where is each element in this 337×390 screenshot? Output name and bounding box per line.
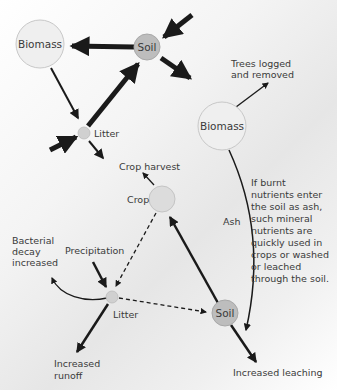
arrow-input-to-soil (164, 15, 192, 37)
precipitation-label: Precipitation (65, 245, 124, 256)
bacterial-decay-label-2: decay (12, 246, 41, 257)
crop-harvest-label: Crop harvest (119, 161, 180, 172)
arrow-litter-to-bacterial-decay (52, 278, 107, 300)
annotation-line: If burnt (251, 177, 286, 188)
annotation-line: through the soil. (251, 273, 329, 284)
annotation-line: the soil as ash, (251, 201, 322, 212)
crop-label: Crop (127, 194, 149, 205)
litter-label-bottom: Litter (113, 309, 138, 320)
bacterial-decay-label-3: increased (12, 257, 58, 268)
litter-node-top (78, 127, 90, 139)
annotation-line: or leached (251, 261, 301, 272)
arrow-precipitation-to-litter (93, 262, 106, 287)
runoff-label-1: Increased (54, 358, 100, 369)
annotation-line: such mineral (251, 213, 312, 224)
annotation-line: crops or washed (251, 249, 329, 260)
soil-label-top: Soil (138, 41, 157, 53)
leaching-label: Increased leaching (233, 367, 323, 378)
arrow-biomass-to-litter (51, 68, 78, 118)
annotation-line: quickly used in (251, 237, 322, 248)
trees-logged-label: Trees logged (230, 58, 291, 69)
annotation-line: nutrients are (251, 225, 312, 236)
arrow-biomass-to-logging (236, 83, 268, 107)
top-cycle: Biomass Soil Litter (16, 15, 192, 158)
ash-annotation: If burnt nutrients enter the soil as ash… (251, 177, 329, 284)
biomass-label-bottom: Biomass (200, 120, 244, 132)
arrow-soil-to-leaching (231, 325, 256, 362)
soil-label-bottom: Soil (216, 307, 235, 319)
crop-node (149, 186, 175, 212)
bottom-cycle: Biomass Crop Litter Soil Trees logged an… (12, 58, 329, 381)
bacterial-decay-label-1: Bacterial (12, 235, 54, 246)
arrow-litter-to-runoff (77, 304, 108, 352)
arrow-soil-to-biomass (72, 46, 134, 47)
arrow-input-to-litter (50, 137, 76, 150)
arrow-soil-output (161, 58, 190, 78)
nutrient-cycle-diagram: Biomass Soil Litter Biomass Crop Litter (0, 0, 337, 390)
ash-label: Ash (223, 216, 240, 227)
trees-logged-label-2: and removed (231, 69, 294, 80)
litter-label-top: Litter (94, 128, 119, 139)
arrow-litter-output (89, 141, 103, 158)
runoff-label-2: runoff (54, 370, 83, 381)
biomass-label-top: Biomass (18, 38, 62, 50)
annotation-line: nutrients enter (251, 189, 322, 200)
arrow-crop-to-harvest (143, 173, 154, 185)
arrow-soil-to-crop (170, 217, 218, 303)
litter-node-bottom (106, 291, 118, 303)
arrow-litter-to-soil (88, 64, 138, 126)
